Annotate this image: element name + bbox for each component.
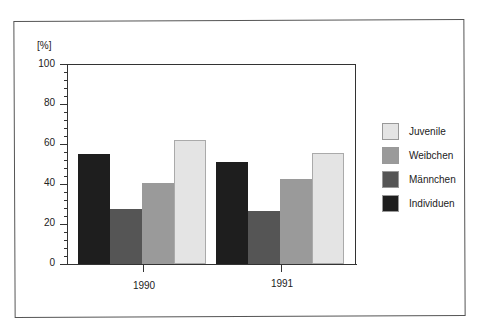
y-major-tick [60, 104, 68, 105]
legend-label: Individuen [409, 198, 455, 209]
bar-1991-juvenile [312, 153, 344, 264]
y-major-tick [60, 64, 68, 65]
y-major-tick [60, 144, 68, 145]
y-tick-label: 0 [31, 257, 55, 268]
x-axis [67, 264, 357, 265]
y-major-tick [60, 224, 68, 225]
legend-swatch [382, 171, 399, 188]
y-minor-tick [64, 208, 68, 209]
y-minor-tick [64, 192, 68, 193]
bar-1991-weibchen [280, 179, 312, 264]
y-minor-tick [64, 200, 68, 201]
y-minor-tick [64, 168, 68, 169]
y-minor-tick [64, 136, 68, 137]
bar-1990-individuen [78, 154, 110, 264]
y-minor-tick [64, 128, 68, 129]
y-tick-label: 20 [31, 217, 55, 228]
x-tick [143, 265, 144, 272]
y-minor-tick [64, 152, 68, 153]
y-major-tick [60, 264, 68, 265]
legend-item-juvenile: Juvenile [382, 123, 472, 143]
legend-label: Juvenile [409, 126, 446, 137]
y-minor-tick [64, 112, 68, 113]
legend-swatch [382, 195, 399, 212]
legend-swatch [382, 147, 399, 164]
x-tick-label-1991: 1991 [262, 278, 302, 289]
y-minor-tick [64, 248, 68, 249]
y-minor-tick [64, 120, 68, 121]
x-tick [281, 265, 282, 272]
y-minor-tick [64, 240, 68, 241]
y-minor-tick [64, 80, 68, 81]
bar-1991-individuen [216, 162, 248, 264]
y-minor-tick [64, 176, 68, 177]
legend-label: Männchen [409, 174, 456, 185]
bar-1990-maennchen [110, 209, 142, 264]
bar-1990-juvenile [174, 140, 206, 264]
y-tick-label: 80 [31, 97, 55, 108]
legend-item-weibchen: Weibchen [382, 147, 472, 167]
y-tick-label: 60 [31, 137, 55, 148]
y-minor-tick [64, 232, 68, 233]
y-minor-tick [64, 256, 68, 257]
bar-1991-maennchen [248, 211, 280, 264]
y-minor-tick [64, 88, 68, 89]
y-major-tick [60, 184, 68, 185]
y-minor-tick [64, 160, 68, 161]
legend-item-individuen: Individuen [382, 195, 472, 215]
y-tick-label: 40 [31, 177, 55, 188]
legend-label: Weibchen [409, 150, 453, 161]
legend-item-maennchen: Männchen [382, 171, 472, 191]
x-tick-label-1990: 1990 [124, 280, 164, 291]
legend-swatch [382, 123, 399, 140]
y-axis [67, 64, 68, 265]
y-tick-label: 100 [31, 58, 55, 69]
y-minor-tick [64, 96, 68, 97]
y-minor-tick [64, 72, 68, 73]
bar-1990-weibchen [142, 183, 174, 264]
y-axis-unit-label: [%] [37, 40, 51, 51]
y-minor-tick [64, 216, 68, 217]
